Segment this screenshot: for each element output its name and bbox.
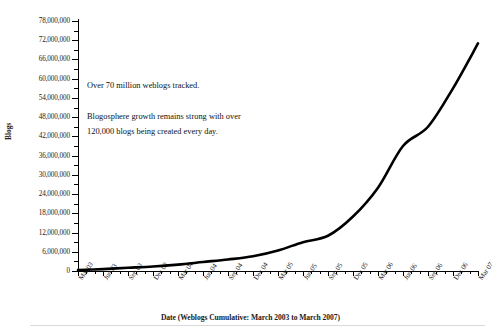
page-rule <box>30 325 485 326</box>
chart-figure: 78,000,00072,000,00066,000,00060,000,000… <box>0 0 501 332</box>
annotation-line-1: Over 70 million weblogs tracked. <box>87 78 317 94</box>
annotation-line-3: 120,000 blogs being created every day. <box>87 124 317 140</box>
annotation-spacer <box>87 94 317 109</box>
plot-area: 78,000,00072,000,00066,000,00060,000,000… <box>0 0 501 332</box>
chart-annotation: Over 70 million weblogs tracked. Blogosp… <box>87 78 317 140</box>
annotation-line-2: Blogosphere growth remains strong with o… <box>87 109 317 125</box>
x-axis-title: Date (Weblogs Cumulative: March 2003 to … <box>0 313 501 322</box>
y-axis-title: Blogs <box>4 123 13 140</box>
series-layer <box>0 0 501 332</box>
